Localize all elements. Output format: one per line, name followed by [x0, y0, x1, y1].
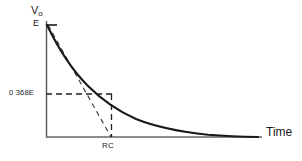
tangent-line — [48, 25, 111, 137]
initial-value-label: E — [33, 19, 39, 28]
y-axis-label: Vo — [31, 5, 43, 16]
rc-discharge-figure: Vo E 0 368E RC Time — [0, 0, 302, 161]
y-axis-label-subscript: o — [38, 9, 42, 18]
decay-curve — [47, 25, 258, 137]
x-axis-label: Time — [266, 126, 292, 138]
plot-area — [0, 0, 302, 161]
decay-value-label: 0 368E — [9, 89, 34, 97]
time-constant-label: RC — [102, 142, 114, 150]
